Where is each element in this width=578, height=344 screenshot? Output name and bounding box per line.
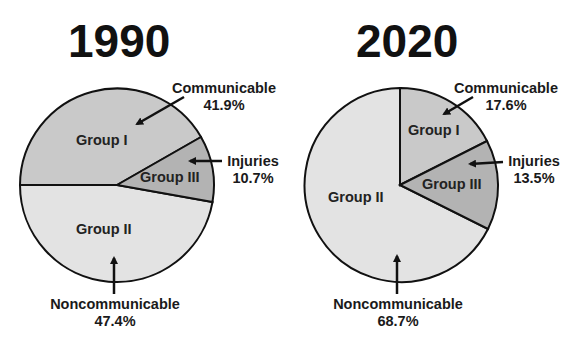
noncommunicable-text: Noncommunicable (40, 296, 190, 313)
injuries-label-1990: Injuries 10.7% (222, 153, 284, 187)
group-iii-label-1990: Group III (140, 169, 200, 185)
injuries-text: Injuries (503, 153, 565, 170)
group-i-label-1990: Group I (76, 132, 128, 148)
injuries-label-2020: Injuries 13.5% (503, 153, 565, 187)
group-i-label-2020: Group I (408, 122, 460, 138)
injuries-pct: 10.7% (222, 170, 284, 187)
group-iii-label-2020: Group III (422, 176, 482, 192)
communicable-pct: 41.9% (164, 97, 284, 114)
chart-title-1990: 1990 (68, 14, 170, 68)
noncommunicable-text: Noncommunicable (323, 296, 473, 313)
noncommunicable-pct: 47.4% (40, 313, 190, 330)
noncommunicable-label-1990: Noncommunicable 47.4% (40, 296, 190, 330)
communicable-label-2020: Communicable 17.6% (446, 80, 566, 114)
noncommunicable-label-2020: Noncommunicable 68.7% (323, 296, 473, 330)
communicable-text: Communicable (164, 80, 284, 97)
injuries-pct: 13.5% (503, 170, 565, 187)
communicable-text: Communicable (446, 80, 566, 97)
communicable-pct: 17.6% (446, 97, 566, 114)
group-ii-label-2020: Group II (328, 189, 384, 205)
pie-1990 (20, 89, 222, 294)
group-ii-label-1990: Group II (76, 221, 132, 237)
chart-title-2020: 2020 (356, 14, 458, 68)
noncommunicable-pct: 68.7% (323, 313, 473, 330)
communicable-label-1990: Communicable 41.9% (164, 80, 284, 114)
injuries-text: Injuries (222, 153, 284, 170)
